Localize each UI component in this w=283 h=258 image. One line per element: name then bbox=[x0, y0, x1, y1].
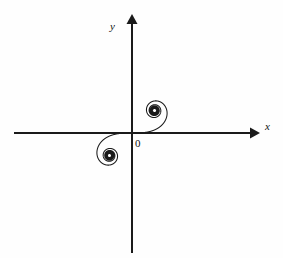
arrow-right-icon bbox=[250, 128, 260, 139]
axes-group bbox=[14, 14, 260, 253]
x-axis-label: x bbox=[265, 121, 270, 132]
euler-spiral-figure: y x 0 bbox=[0, 0, 283, 258]
arrow-up-icon bbox=[127, 14, 138, 24]
figure-canvas bbox=[0, 0, 283, 258]
y-axis-label: y bbox=[110, 21, 115, 32]
origin-label: 0 bbox=[135, 138, 141, 149]
